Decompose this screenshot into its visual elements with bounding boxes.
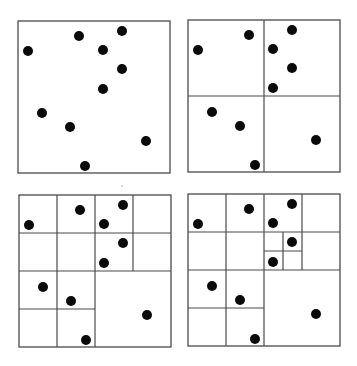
panel-stage-2 [19, 195, 171, 347]
data-point [23, 46, 33, 56]
data-point [80, 161, 90, 171]
data-point [287, 237, 297, 247]
data-point [287, 63, 297, 73]
data-point [99, 219, 109, 229]
data-point [207, 281, 217, 291]
data-point [250, 160, 260, 170]
scan-artifacts [121, 185, 123, 187]
data-point [81, 335, 91, 345]
data-point [98, 84, 108, 94]
data-point [98, 45, 108, 55]
data-point [141, 136, 151, 146]
panel-border [18, 21, 170, 173]
data-point [37, 108, 47, 118]
quadtree-figure [0, 0, 357, 366]
data-point [235, 295, 245, 305]
data-point [268, 218, 278, 228]
panel-stage-3 [188, 194, 340, 346]
data-point [117, 26, 127, 36]
data-point [75, 205, 85, 215]
data-point [65, 122, 75, 132]
data-point [66, 296, 76, 306]
data-point [250, 334, 260, 344]
data-point [193, 219, 203, 229]
data-point [287, 199, 297, 209]
data-point [38, 282, 48, 292]
data-point [99, 258, 109, 268]
data-point [142, 310, 152, 320]
data-point [117, 64, 127, 74]
data-point [268, 257, 278, 267]
data-point [311, 309, 321, 319]
data-point [207, 107, 217, 117]
data-point [193, 45, 203, 55]
data-point [24, 220, 34, 230]
data-point [268, 44, 278, 54]
data-point [235, 121, 245, 131]
scan-speck [121, 185, 123, 187]
data-point [268, 83, 278, 93]
data-point [287, 25, 297, 35]
data-point [74, 31, 84, 41]
data-point [118, 200, 128, 210]
panels-layer [18, 20, 340, 347]
data-point [118, 238, 128, 248]
data-point [244, 204, 254, 214]
data-point [311, 135, 321, 145]
panel-stage-1 [188, 20, 340, 172]
panel-stage-0 [18, 21, 170, 173]
data-point [244, 30, 254, 40]
